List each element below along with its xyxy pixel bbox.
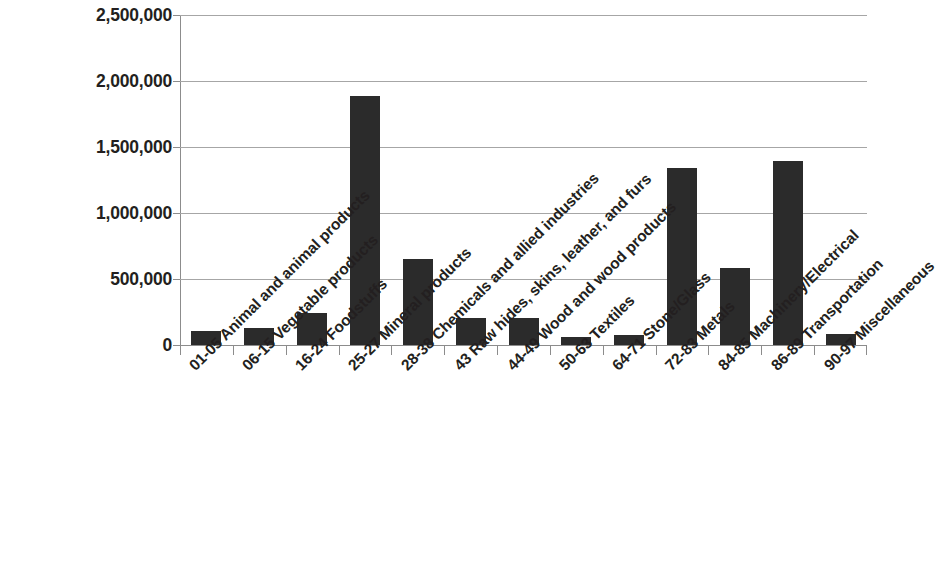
y-axis-tick-label: 500,000 bbox=[4, 269, 172, 290]
x-axis-tick-mark bbox=[708, 346, 709, 355]
x-axis-tick-mark bbox=[233, 346, 234, 355]
gridline bbox=[180, 15, 867, 16]
gridline bbox=[180, 213, 867, 214]
y-axis-tick-label: 1,500,000 bbox=[4, 137, 172, 158]
x-axis-tick-mark bbox=[444, 346, 445, 355]
y-axis-tick-label: 2,500,000 bbox=[4, 5, 172, 26]
gridline bbox=[180, 81, 867, 82]
y-axis-tick-label-wrap: 1,500,000 bbox=[0, 147, 172, 148]
x-axis-tick-mark bbox=[550, 346, 551, 355]
y-axis-tick-label-wrap: 1,000,000 bbox=[0, 213, 172, 214]
y-axis-tick-label-wrap: 2,500,000 bbox=[0, 15, 172, 16]
x-axis-tick-mark bbox=[866, 346, 867, 355]
gridline bbox=[180, 147, 867, 148]
x-axis-tick-mark bbox=[814, 346, 815, 355]
y-axis-tick-label: 0 bbox=[4, 335, 172, 356]
y-axis-tick-label: 1,000,000 bbox=[4, 203, 172, 224]
x-axis-tick-mark bbox=[391, 346, 392, 355]
y-axis-tick-label-wrap: 500,000 bbox=[0, 279, 172, 280]
x-axis-tick-mark bbox=[286, 346, 287, 355]
y-axis-tick-label: 2,000,000 bbox=[4, 71, 172, 92]
y-axis-tick-label-wrap: 0 bbox=[0, 345, 172, 346]
y-axis-tick-label-wrap: 2,000,000 bbox=[0, 81, 172, 82]
x-axis-tick-mark bbox=[761, 346, 762, 355]
x-axis-tick-mark bbox=[180, 346, 181, 355]
x-axis-tick-mark bbox=[497, 346, 498, 355]
x-axis-tick-mark bbox=[339, 346, 340, 355]
x-axis-tick-mark bbox=[656, 346, 657, 355]
x-axis-tick-mark bbox=[603, 346, 604, 355]
